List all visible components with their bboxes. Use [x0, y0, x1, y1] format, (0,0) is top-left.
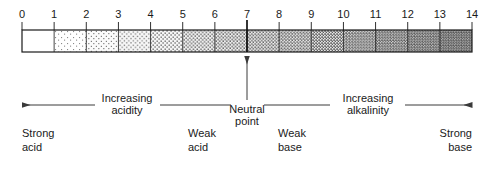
alkalinity-label-line2: alkalinity [347, 104, 390, 116]
ph-scale-diagram: 0 1 2 3 4 5 6 7 8 9 10 11 12 13 14 Neutr… [0, 0, 491, 170]
neutral-label-line1: Neutral [229, 103, 264, 115]
zone-strong-acid-line1: Strong [22, 127, 54, 139]
tick-label-12: 12 [402, 8, 414, 20]
neutral-label-line2: point [235, 115, 259, 127]
tick-label-11: 11 [370, 8, 381, 20]
tick-label-1: 1 [51, 8, 57, 20]
increasing-alkalinity-annotation: Increasing alkalinity [264, 92, 472, 116]
acidity-label-line2: acidity [111, 104, 143, 116]
increasing-acidity-annotation: Increasing acidity [22, 92, 231, 116]
acidity-label-line1: Increasing [102, 92, 153, 104]
zone-strong-acid-line2: acid [22, 141, 42, 153]
zone-weak-acid-line2: acid [188, 141, 208, 153]
zone-weak-acid-line1: Weak [188, 127, 216, 139]
tick-label-13: 13 [434, 8, 446, 20]
tick-label-5: 5 [180, 8, 186, 20]
tick-label-2: 2 [83, 8, 89, 20]
tick-label-3: 3 [115, 8, 121, 20]
zone-strong-base-line1: Strong [440, 127, 472, 139]
zone-strong-base-line2: base [448, 141, 472, 153]
ph-scale-bar: 0 1 2 3 4 5 6 7 8 9 10 11 12 13 14 [19, 8, 478, 52]
tick-label-7: 7 [244, 8, 250, 20]
tick-label-14: 14 [466, 8, 478, 20]
tick-label-4: 4 [148, 8, 154, 20]
tick-label-0: 0 [19, 8, 25, 20]
tick-label-8: 8 [276, 8, 282, 20]
zone-weak-base-line2: base [278, 141, 302, 153]
tick-label-9: 9 [308, 8, 314, 20]
alkalinity-label-line1: Increasing [343, 92, 394, 104]
tick-label-6: 6 [212, 8, 218, 20]
zone-weak-base-line1: Weak [278, 127, 306, 139]
zone-labels: Strong acid Weak acid Weak base Strong b… [22, 127, 472, 153]
neutral-point-annotation: Neutral point [229, 56, 264, 127]
tick-label-10: 10 [337, 8, 349, 20]
scale-tick-labels: 0 1 2 3 4 5 6 7 8 9 10 11 12 13 14 [19, 8, 478, 20]
